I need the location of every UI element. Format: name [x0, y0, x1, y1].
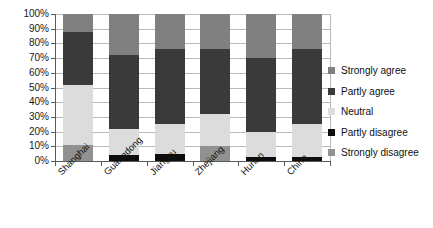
- gridline: [55, 58, 330, 59]
- gridline: [55, 43, 330, 44]
- gridline: [55, 132, 330, 133]
- bar-segment[interactable]: [200, 49, 230, 114]
- y-axis-tick-label: 90%: [29, 24, 49, 34]
- x-axis-tick-mark: [193, 162, 194, 166]
- y-axis-tick-mark: [51, 88, 55, 89]
- bar-segment[interactable]: [246, 58, 276, 132]
- x-axis-tick-mark: [147, 162, 148, 166]
- bar-segment[interactable]: [246, 14, 276, 58]
- legend-item[interactable]: Partly disagree: [328, 124, 432, 141]
- y-axis-tick-mark: [51, 161, 55, 162]
- legend-item[interactable]: Strongly disagree: [328, 144, 432, 161]
- legend-swatch-icon: [328, 129, 335, 136]
- y-axis-tick-label: 30%: [29, 112, 49, 122]
- bar-segment[interactable]: [292, 124, 322, 156]
- gridline: [55, 102, 330, 103]
- bar-segment[interactable]: [200, 114, 230, 146]
- y-axis-tick-mark: [51, 73, 55, 74]
- legend-label: Partly agree: [341, 86, 395, 97]
- bar-group[interactable]: [292, 14, 322, 161]
- bar-group[interactable]: [200, 14, 230, 161]
- y-axis-tick-label: 100%: [23, 9, 49, 19]
- bar-segment[interactable]: [109, 14, 139, 55]
- bar-segment[interactable]: [63, 85, 93, 145]
- gridline: [55, 29, 330, 30]
- legend-swatch-icon: [328, 108, 335, 115]
- bar-segment[interactable]: [292, 49, 322, 124]
- y-axis-labels: 100%90%80%70%60%50%40%30%20%10%0%: [0, 0, 49, 228]
- plot-area: [55, 14, 330, 161]
- legend-swatch-icon: [328, 149, 335, 156]
- legend-swatch-icon: [328, 67, 335, 74]
- y-axis-tick-label: 50%: [29, 83, 49, 93]
- y-axis-tick-mark: [51, 146, 55, 147]
- gridline: [55, 73, 330, 74]
- y-axis-tick-label: 0%: [35, 156, 49, 166]
- bar-segment[interactable]: [155, 49, 185, 124]
- x-axis-tick-mark: [284, 162, 285, 166]
- bar-segment[interactable]: [200, 14, 230, 49]
- x-axis-tick-mark: [55, 162, 56, 166]
- y-axis-tick-mark: [51, 58, 55, 59]
- y-axis-tick-label: 80%: [29, 38, 49, 48]
- legend-label: Partly disagree: [341, 127, 408, 138]
- bar-group[interactable]: [155, 14, 185, 161]
- legend-item[interactable]: Partly agree: [328, 83, 432, 100]
- bar-segment[interactable]: [292, 14, 322, 49]
- gridline: [55, 117, 330, 118]
- gridline: [55, 88, 330, 89]
- legend-item[interactable]: Neutral: [328, 103, 432, 120]
- y-axis-tick-mark: [51, 102, 55, 103]
- legend-label: Strongly agree: [341, 65, 406, 76]
- legend-label: Strongly disagree: [341, 147, 419, 158]
- bar-group[interactable]: [63, 14, 93, 161]
- gridline: [55, 146, 330, 147]
- y-axis-tick-label: 20%: [29, 127, 49, 137]
- bar-segment[interactable]: [109, 55, 139, 129]
- y-axis-tick-mark: [51, 43, 55, 44]
- bar-segment[interactable]: [63, 14, 93, 32]
- bar-group[interactable]: [246, 14, 276, 161]
- gridline: [55, 14, 330, 15]
- y-axis-tick-label: 60%: [29, 68, 49, 78]
- y-axis-tick-mark: [51, 29, 55, 30]
- y-axis-tick-mark: [51, 132, 55, 133]
- stacked-bar-chart: 100%90%80%70%60%50%40%30%20%10%0% Shangh…: [0, 0, 433, 228]
- y-axis-tick-label: 40%: [29, 97, 49, 107]
- legend-label: Neutral: [341, 106, 373, 117]
- x-axis-tick-mark: [238, 162, 239, 166]
- y-axis-line: [55, 14, 56, 162]
- y-axis-tick-label: 70%: [29, 53, 49, 63]
- chart-legend: Strongly agreePartly agreeNeutralPartly …: [328, 62, 432, 165]
- legend-item[interactable]: Strongly agree: [328, 62, 432, 79]
- x-axis-tick-mark: [101, 162, 102, 166]
- bar-segment[interactable]: [63, 32, 93, 85]
- y-axis-tick-mark: [51, 117, 55, 118]
- bar-segment[interactable]: [155, 14, 185, 49]
- y-axis-tick-label: 10%: [29, 141, 49, 151]
- y-axis-tick-mark: [51, 14, 55, 15]
- legend-swatch-icon: [328, 88, 335, 95]
